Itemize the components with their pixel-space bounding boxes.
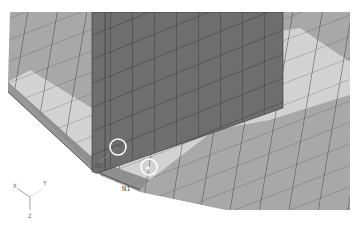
triad-z-label: Z [28,212,32,219]
node-n2-label: N2 [95,162,103,170]
mesh-render: N2 N1 X Y Z [0,0,360,226]
triad-x-label: X [13,182,17,189]
triad-y-label: Y [43,179,47,186]
node-n1-label: N1 [122,185,130,193]
mesh-viewport[interactable]: N2 N1 X Y Z [0,0,360,226]
